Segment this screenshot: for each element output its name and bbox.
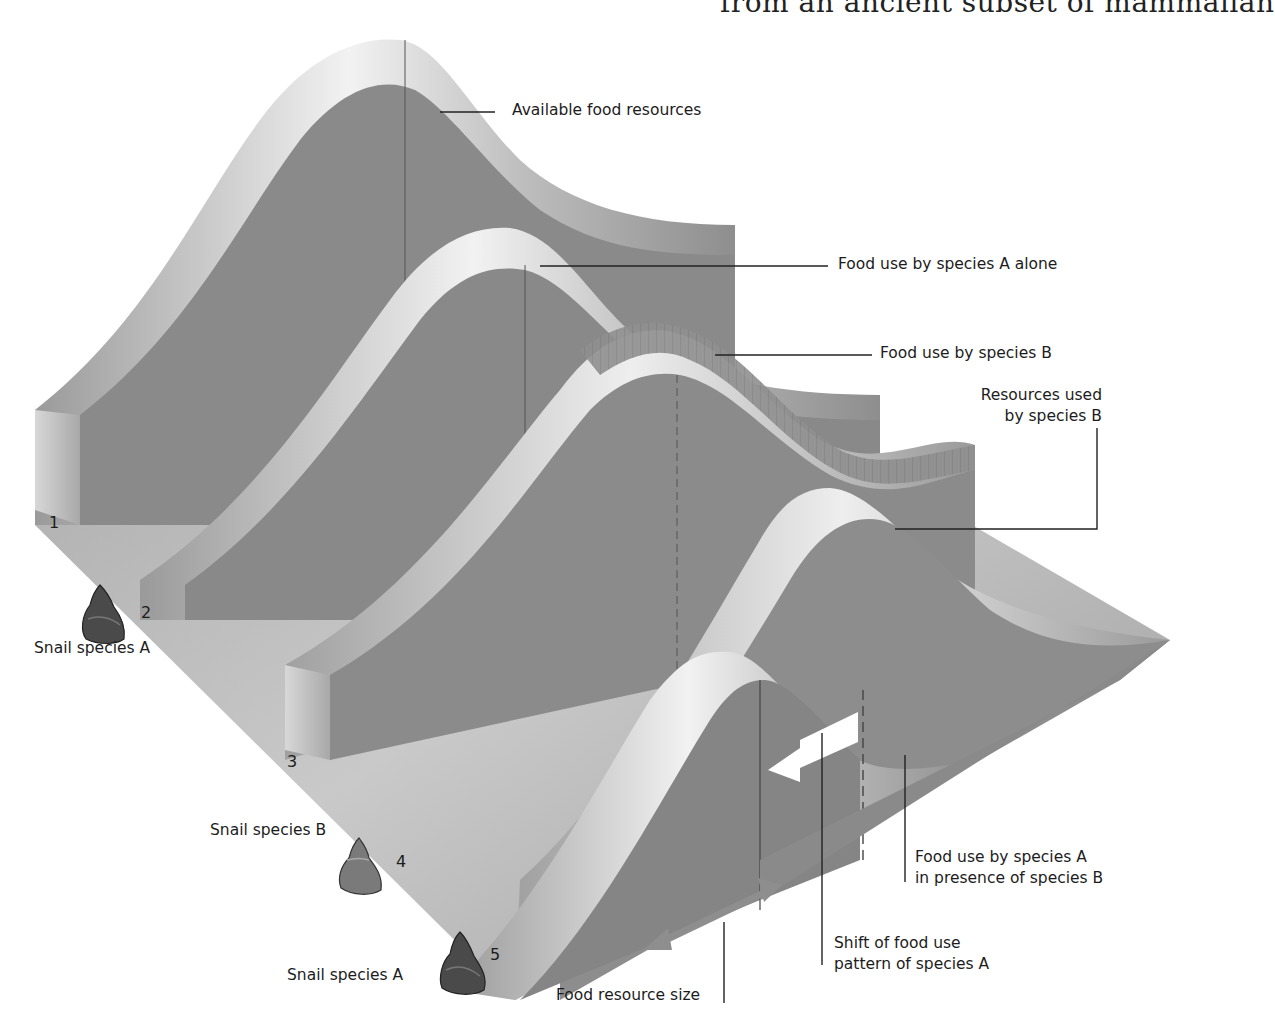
label-species-a-alone: Food use by species A alone [838,254,1057,275]
row-number-3: 3 [287,752,297,771]
label-snail-species-a-row2: Snail species A [34,638,150,659]
label-shift-food-use: Shift of food use pattern of species A [834,933,989,975]
label-species-b-use: Food use by species B [880,343,1052,364]
label-snail-species-a-row5: Snail species A [287,965,403,986]
axis-label-food-resource-size: Food resource size [556,985,700,1006]
row-number-4: 4 [396,852,406,871]
label-snail-species-b-row4: Snail species B [210,820,326,841]
label-species-a-presence-b: Food use by species A in presence of spe… [915,847,1103,889]
curve-row-3-end-block [285,665,330,760]
row-number-2: 2 [141,603,151,622]
row-number-1: 1 [49,513,59,532]
label-resources-used-b: Resources used by species B [940,385,1102,427]
curve-row-1-end-block [35,410,80,525]
label-available-food: Available food resources [512,100,701,121]
row-number-5: 5 [490,945,500,964]
